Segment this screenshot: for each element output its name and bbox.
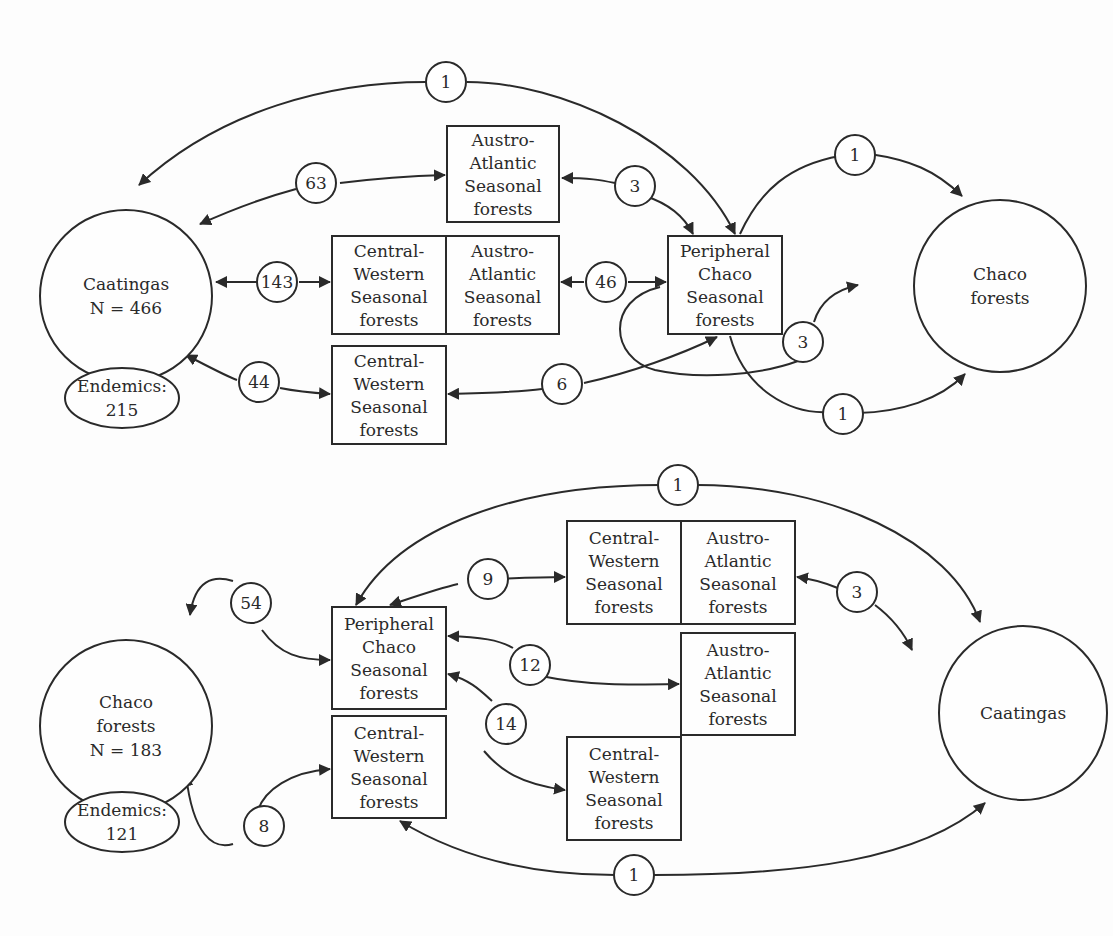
panel-chaco-centered: ChacoforestsN = 183CaatingasEndemics:121… [40,465,1107,895]
shared-species-count-c14: 14 [486,704,526,744]
node-label-line: Austro- [470,241,534,261]
node-label-line: Western [354,746,425,766]
shared-species-count-c44: 44 [239,362,279,402]
count-value: 3 [852,582,863,602]
shared-species-count-c1-top: 1 [426,62,466,102]
region-node-chaco: Chacoforests [914,200,1086,372]
node-label-line: forests [360,310,419,330]
edge-arrow [280,388,330,394]
node-label-line: Seasonal [686,287,763,307]
edge-arrow [448,674,492,701]
node-label-line: N = 466 [90,298,162,318]
shared-species-count-c54: 54 [231,583,271,623]
node-label-line: Chaco [99,692,153,712]
node-label-line: Austro- [706,528,770,548]
node-label-line: Central- [354,723,424,743]
edge-arrow [186,775,233,845]
count-value: 12 [519,655,541,675]
node-label-line: forests [474,199,533,219]
edge-arrow [186,355,237,380]
species-exchange-diagram: CaatingasN = 466ChacoforestsEndemics:215… [0,0,1113,936]
edge-arrow [139,82,426,185]
forest-box-austro-atlantic-mid: Austro-AtlanticSeasonalforests [681,633,795,735]
count-value: 9 [483,569,494,589]
count-value: 54 [240,593,262,613]
node-label-line: Seasonal [350,287,427,307]
region-node-endemics: Endemics:215 [65,368,179,428]
shared-species-count-c3-chaco: 3 [783,322,823,362]
region-node-chaco: ChacoforestsN = 183 [40,640,212,812]
shared-species-count-c143: 143 [257,262,297,302]
node-label-line: Seasonal [585,574,662,594]
shared-species-count-c9: 9 [468,559,508,599]
node-label-line: Seasonal [585,790,662,810]
edge-arrow [562,178,615,183]
node-label-line: Caatingas [980,703,1066,723]
node-label-line: Central- [589,528,659,548]
edge-arrow [258,769,330,810]
forest-box-central-western-low: Central-WesternSeasonalforests [567,737,681,840]
count-value: 63 [305,173,327,193]
edge-arrow [484,751,565,790]
shared-species-count-c12: 12 [510,645,550,685]
node-label-line: Western [589,551,660,571]
node-label-line: forests [473,310,532,330]
count-value: 46 [595,272,617,292]
node-label-line: Chaco [973,264,1027,284]
node-label-line: Caatingas [83,274,169,294]
node-label-line: Chaco [362,637,416,657]
count-value: 143 [261,272,293,292]
node-label-line: Endemics: [77,800,167,820]
node-label-line: Seasonal [350,769,427,789]
count-value: 44 [248,372,270,392]
edge-arrow [858,374,965,413]
node-label-line: Chaco [698,264,752,284]
forest-box-central-western-mid: Central-WesternSeasonalforests [332,236,446,334]
node-label-line: Atlantic [468,153,536,173]
count-value: 6 [557,374,568,394]
node-label-line: forests [595,813,654,833]
forest-box-central-western-left: Central-WesternSeasonalforests [332,716,446,818]
edge-arrow [654,803,985,875]
region-node-caatingas: CaatingasN = 466 [40,210,212,382]
node-label-line: Western [354,374,425,394]
node-label-line: Seasonal [464,287,541,307]
edge-arrow [645,196,693,234]
node-label-line: forests [360,420,419,440]
node-label-line: forests [595,597,654,617]
forest-box-austro-atlantic-mid: Austro-AtlanticSeasonalforests [446,236,559,334]
node-label-line: Seasonal [350,397,427,417]
count-value: 3 [630,176,641,196]
shared-species-count-c6: 6 [542,364,582,404]
forest-box-peripheral-chaco: PeripheralChacoSeasonalforests [332,607,446,709]
node-label-line: forests [97,716,156,736]
shared-species-count-c3-austro: 3 [615,166,655,206]
shared-species-count-c3: 3 [837,572,877,612]
edge-arrow [262,630,330,660]
node-label-line: forests [360,683,419,703]
shared-species-count-c1-chaco-bottom: 1 [823,394,863,434]
forest-box-austro-atlantic-top: Austro-AtlanticSeasonalforests [681,521,795,624]
edge-arrow [200,189,296,224]
node-label-line: Austro- [706,640,770,660]
node-label-line: Western [354,264,425,284]
node-label-line: Seasonal [350,660,427,680]
shared-species-count-c1-chaco-top: 1 [835,135,875,175]
node-label-line: 121 [106,824,138,844]
node-label-line: forests [709,597,768,617]
node-label-line: Central- [354,241,424,261]
panel-caatingas-centered: CaatingasN = 466ChacoforestsEndemics:215… [40,62,1086,444]
edge-arrow [541,676,679,685]
node-label-line: forests [696,310,755,330]
node-label-line: Seasonal [699,686,776,706]
edge-arrow [875,605,912,650]
node-label-line: Austro- [471,130,535,150]
forest-box-central-western-top: Central-WesternSeasonalforests [567,521,681,624]
node-label-line: Seasonal [699,574,776,594]
edge-arrow [797,577,840,589]
shared-species-count-c1-bottom: 1 [614,855,654,895]
count-value: 8 [259,816,270,836]
forest-box-central-western-low: Central-WesternSeasonalforests [332,346,446,444]
count-value: 1 [838,404,849,424]
shared-species-count-c63: 63 [296,163,336,203]
